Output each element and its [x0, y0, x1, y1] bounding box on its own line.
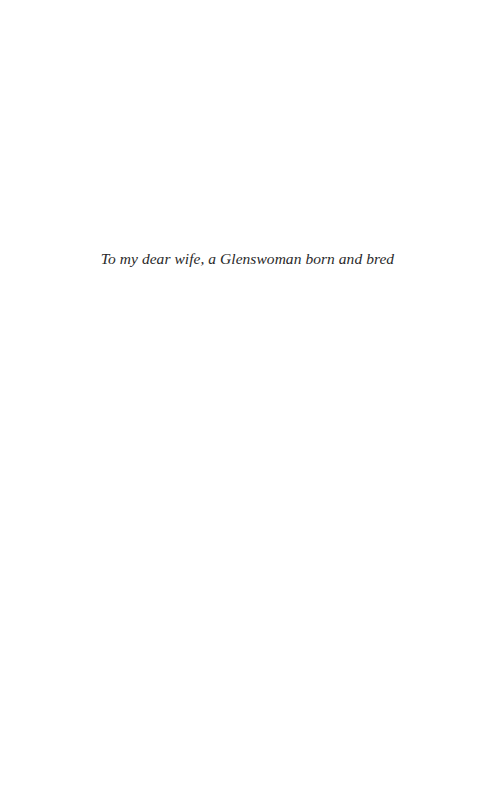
book-page: To my dear wife, a Glenswoman born and b…: [0, 0, 495, 788]
dedication-text: To my dear wife, a Glenswoman born and b…: [0, 249, 495, 269]
